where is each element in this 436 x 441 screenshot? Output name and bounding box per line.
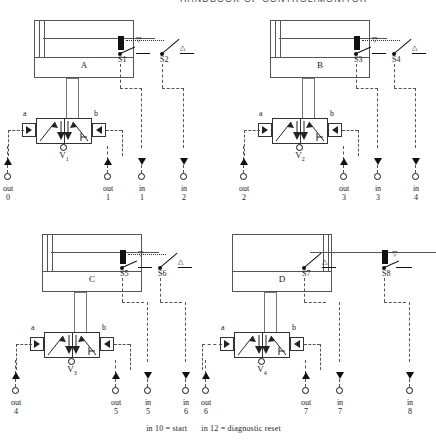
valve-actuator-right[interactable] xyxy=(92,123,106,137)
cylinder-port-a xyxy=(74,292,75,332)
port-word: in xyxy=(326,398,354,407)
arrow-down-icon xyxy=(412,158,420,165)
piston xyxy=(275,21,281,57)
port-terminal xyxy=(202,387,209,394)
valve-signal-right-drop xyxy=(320,344,321,370)
port-word: out xyxy=(2,398,30,407)
valve-actuator-left[interactable] xyxy=(22,123,36,137)
cylinder-label: D xyxy=(232,274,332,284)
circuit-unit-c: C xyxy=(0,222,213,432)
actuator-label-a: a xyxy=(31,323,35,332)
port-terminal xyxy=(144,387,151,394)
sensor-label: S8 xyxy=(382,269,390,278)
port-terminal xyxy=(4,173,11,180)
port-stem-lower xyxy=(377,165,378,173)
port-word: out xyxy=(292,398,320,407)
valve-flow-paths xyxy=(37,119,91,143)
valve-signal-left-drop xyxy=(16,344,17,370)
sensor-out-drop xyxy=(304,278,305,302)
cylinder-port-a xyxy=(264,292,265,332)
cylinder-port-link xyxy=(74,292,87,293)
port-number: 7 xyxy=(292,407,320,416)
sensor-out-run xyxy=(356,88,378,89)
port-terminal xyxy=(12,387,19,394)
valve-actuator-right[interactable] xyxy=(328,123,342,137)
port-word: in xyxy=(128,184,156,193)
valve-name: V1 xyxy=(14,150,114,162)
port-number: 2 xyxy=(230,193,258,202)
port-number: 7 xyxy=(326,407,354,416)
valve-actuator-right[interactable] xyxy=(100,337,114,351)
switch-contact xyxy=(180,53,194,54)
sensor-magnet-icon xyxy=(354,36,360,50)
valve-signal-right xyxy=(114,344,130,345)
valve-actuator-left[interactable] xyxy=(258,123,272,137)
sensor-link-line xyxy=(128,254,166,255)
sensor-link-line xyxy=(362,40,400,41)
port-stem-lower xyxy=(183,165,184,173)
port-terminal xyxy=(182,387,189,394)
cylinder-port-a xyxy=(302,78,303,118)
sensor-magnet-icon xyxy=(118,36,124,50)
port-number: 1 xyxy=(128,193,156,202)
port-number: 8 xyxy=(396,407,424,416)
port-terminal xyxy=(340,173,347,180)
port-word: in xyxy=(170,184,198,193)
sensor-label: S3 xyxy=(354,55,362,64)
cylinder-port-link xyxy=(302,78,315,79)
valve-actuator-right[interactable] xyxy=(290,337,304,351)
sensor-out-drop xyxy=(160,278,161,302)
arrow-up-icon xyxy=(12,372,20,379)
cylinder-port-b xyxy=(314,78,315,118)
valve-name-sub: 2 xyxy=(302,156,305,162)
valve-flow-paths xyxy=(235,333,289,357)
port-word: in xyxy=(396,398,424,407)
port-terminal xyxy=(406,387,413,394)
port-word: out xyxy=(0,184,22,193)
cylinder-port-a xyxy=(66,78,67,118)
port-stem-lower xyxy=(141,165,142,173)
port-stem xyxy=(147,302,148,362)
actuator-label-b: b xyxy=(102,323,106,332)
valve-signal-right xyxy=(342,130,358,131)
valve-name: V4 xyxy=(212,364,312,376)
valve-signal-right-drop xyxy=(122,130,123,156)
port-terminal xyxy=(112,387,119,394)
port-number: 5 xyxy=(102,407,130,416)
valve-actuator-left[interactable] xyxy=(30,337,44,351)
port-terminal xyxy=(302,387,309,394)
valve-signal-right-drop xyxy=(358,130,359,156)
pilot-triangle-left-icon xyxy=(96,126,102,134)
sensor-out-run xyxy=(120,88,142,89)
valve-body xyxy=(44,332,100,358)
arrow-up-icon xyxy=(340,158,348,165)
port-terminal xyxy=(104,173,111,180)
sensor-label: S7 xyxy=(302,269,310,278)
sensor-out-drop xyxy=(356,64,357,88)
valve-actuator-left[interactable] xyxy=(220,337,234,351)
port-number: 4 xyxy=(2,407,30,416)
cylinder-port-b xyxy=(78,78,79,118)
switch-contact xyxy=(138,267,152,268)
port-terminal xyxy=(180,173,187,180)
port-word: out xyxy=(102,398,130,407)
valve-name: V2 xyxy=(250,150,350,162)
valve-signal-left xyxy=(8,130,24,131)
port-stem-lower xyxy=(205,379,206,387)
switch-lever xyxy=(162,39,179,54)
arrow-down-icon xyxy=(182,372,190,379)
pilot-triangle-left-icon xyxy=(104,340,110,348)
port-stem-lower xyxy=(243,165,244,173)
sensor-magnet-icon xyxy=(382,250,388,264)
port-stem-lower xyxy=(343,165,344,173)
port-stem-lower xyxy=(107,165,108,173)
actuator-label-b: b xyxy=(330,109,334,118)
sensor-out-drop xyxy=(120,64,121,88)
port-stem xyxy=(141,88,142,148)
port-number: 3 xyxy=(330,193,358,202)
cylinder-port-b xyxy=(276,292,277,332)
cylinder-barrel xyxy=(232,234,332,272)
port-stem-lower xyxy=(115,379,116,387)
valve-signal-right-drop xyxy=(130,344,131,370)
arrow-down-icon xyxy=(374,158,382,165)
